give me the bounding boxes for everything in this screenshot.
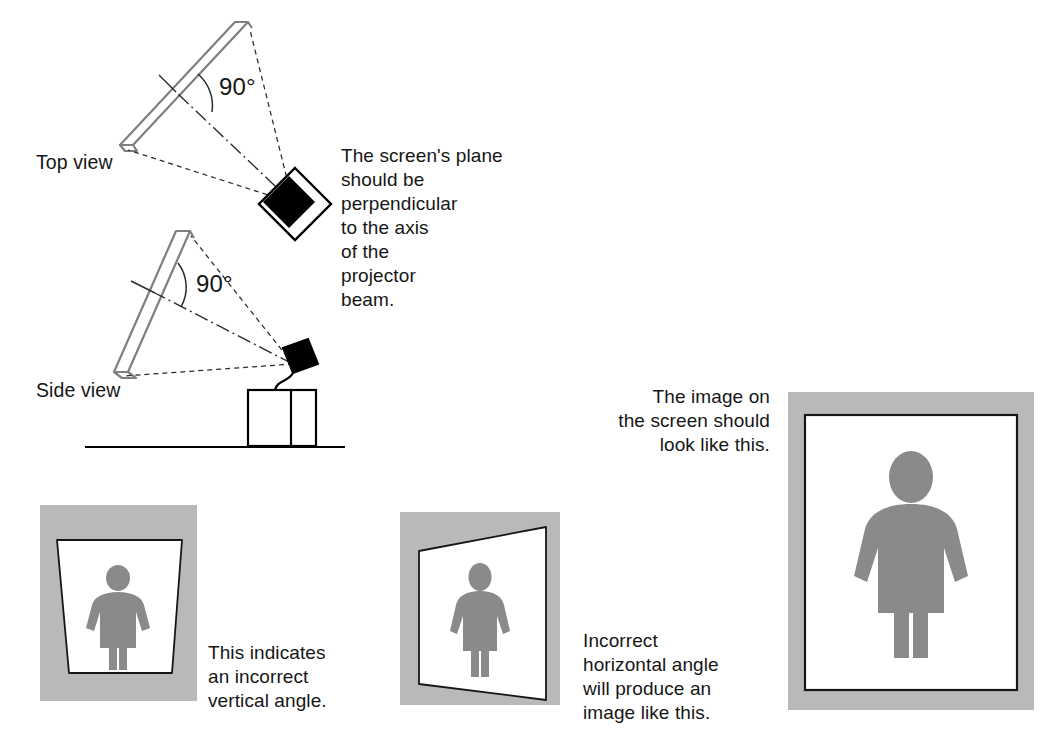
- perpendicular-explanation-text: The screen's plane should be perpendicul…: [341, 144, 551, 312]
- top-view-angle-label: 90°: [219, 75, 256, 99]
- vertical-keystone-caption: This indicates an incorrect vertical ang…: [208, 641, 383, 713]
- panel-horizontal-keystone: [400, 512, 560, 705]
- top-view-normal-tick: [159, 75, 176, 92]
- diagram-canvas: Top view Side view 90° 90° The screen's …: [0, 0, 1049, 755]
- panel-correct-image: [788, 392, 1034, 710]
- top-view-label: Top view: [36, 150, 113, 174]
- projector-alignment-illustration: [0, 0, 1049, 755]
- top-view-projector: [259, 168, 331, 240]
- top-view-group: [120, 22, 293, 203]
- side-view-group: [114, 231, 293, 378]
- side-view-angle-arc: [178, 263, 186, 307]
- panel-vertical-keystone: [40, 505, 197, 701]
- correct-image-caption: The image on the screen should look like…: [585, 385, 770, 457]
- horizontal-keystone-caption: Incorrect horizontal angle will produce …: [583, 629, 783, 725]
- side-view-optical-axis: [155, 293, 293, 364]
- side-view-label: Side view: [36, 378, 120, 402]
- top-view-angle-arc: [198, 74, 212, 112]
- side-view-angle-label: 90°: [196, 272, 233, 296]
- projector-table: [248, 390, 316, 446]
